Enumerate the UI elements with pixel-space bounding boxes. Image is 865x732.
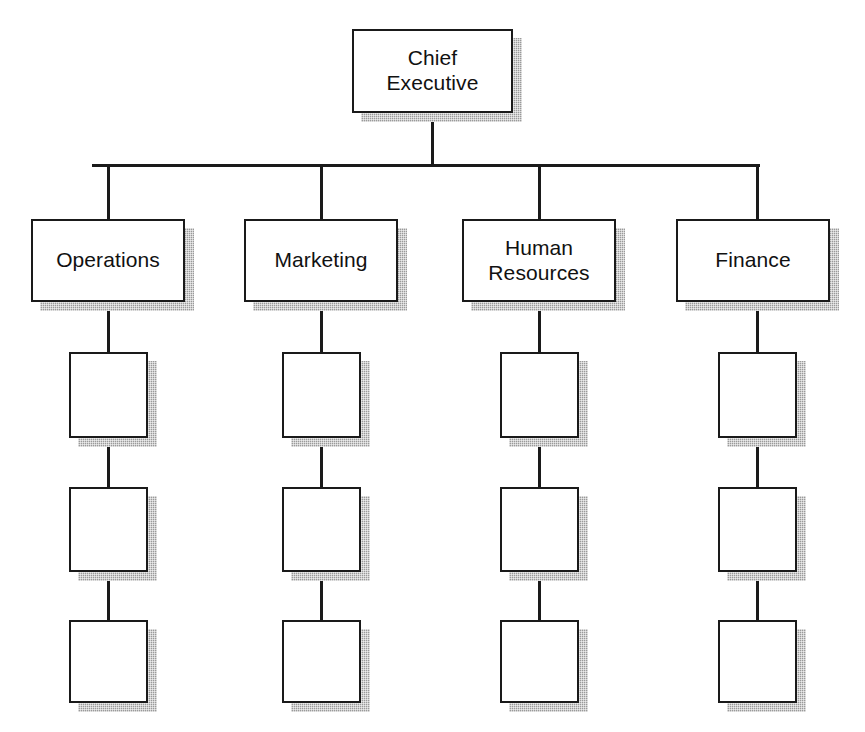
box-face xyxy=(282,352,361,438)
node-label: Operations xyxy=(50,248,166,273)
box-face xyxy=(500,352,579,438)
box-face xyxy=(282,487,361,572)
box-face: Chief Executive xyxy=(352,29,513,113)
node-subordinate-3-2[interactable] xyxy=(718,620,797,703)
box-face xyxy=(282,620,361,703)
box-face xyxy=(500,487,579,572)
node-subordinate-3-0[interactable] xyxy=(718,352,797,438)
node-label: Finance xyxy=(709,248,796,273)
box-face xyxy=(69,487,148,572)
box-face xyxy=(69,620,148,703)
box-face: Finance xyxy=(676,219,830,302)
node-chief-executive[interactable]: Chief Executive xyxy=(352,29,513,113)
node-department-3[interactable]: Finance xyxy=(676,219,830,302)
node-subordinate-1-1[interactable] xyxy=(282,487,361,572)
node-subordinate-1-0[interactable] xyxy=(282,352,361,438)
org-chart-canvas: Chief ExecutiveOperationsMarketingHuman … xyxy=(0,0,865,732)
node-department-0[interactable]: Operations xyxy=(31,219,185,302)
node-subordinate-1-2[interactable] xyxy=(282,620,361,703)
node-subordinate-0-0[interactable] xyxy=(69,352,148,438)
box-face xyxy=(500,620,579,703)
node-subordinate-2-2[interactable] xyxy=(500,620,579,703)
node-department-1[interactable]: Marketing xyxy=(244,219,398,302)
box-face xyxy=(718,352,797,438)
node-layer: Chief ExecutiveOperationsMarketingHuman … xyxy=(0,0,865,732)
node-subordinate-0-2[interactable] xyxy=(69,620,148,703)
node-label: Chief Executive xyxy=(381,46,485,96)
node-subordinate-2-1[interactable] xyxy=(500,487,579,572)
node-department-2[interactable]: Human Resources xyxy=(462,219,616,302)
node-subordinate-2-0[interactable] xyxy=(500,352,579,438)
box-face xyxy=(718,487,797,572)
box-face: Operations xyxy=(31,219,185,302)
box-face: Human Resources xyxy=(462,219,616,302)
node-label: Human Resources xyxy=(482,236,595,286)
box-face xyxy=(718,620,797,703)
box-face: Marketing xyxy=(244,219,398,302)
box-face xyxy=(69,352,148,438)
node-subordinate-0-1[interactable] xyxy=(69,487,148,572)
node-subordinate-3-1[interactable] xyxy=(718,487,797,572)
node-label: Marketing xyxy=(268,248,373,273)
